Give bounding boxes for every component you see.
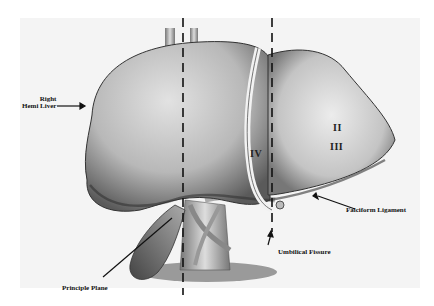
segment-ii-label: II xyxy=(333,122,342,133)
right-hemi-liver-label-line2: Hemi Liver xyxy=(22,102,56,110)
umbilical-fissure-label: Umbilical Fissure xyxy=(278,248,331,256)
round-ligament xyxy=(276,201,284,209)
hilar-vessels xyxy=(180,196,275,270)
segment-iii-label: III xyxy=(330,141,343,152)
principle-plane-label: Principle Plane xyxy=(62,284,108,292)
right-lobe xyxy=(85,42,270,212)
liver-diagram: Right Hemi Liver Falciform Ligament Umbi… xyxy=(0,0,434,306)
segment-iv-label: IV xyxy=(250,148,262,159)
left-lobe xyxy=(268,50,395,195)
liver-illustration xyxy=(0,0,434,306)
falciform-ligament-label: Falciform Ligament xyxy=(346,206,406,214)
